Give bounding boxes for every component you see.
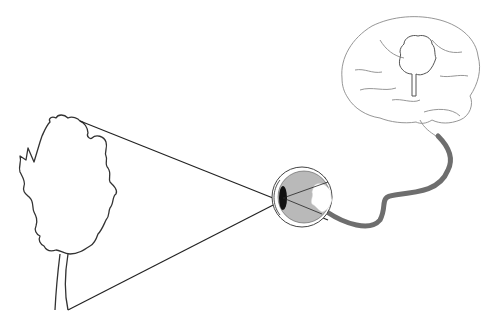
brain-sulcus-4 <box>440 75 468 76</box>
diagram-canvas <box>0 0 500 333</box>
tree-trunk <box>55 254 60 310</box>
tree-canopy <box>19 115 116 254</box>
brain-sulcus-3 <box>432 40 462 53</box>
tree-object <box>19 115 116 310</box>
brain-sulcus-1 <box>355 70 382 73</box>
brain-cerebellum <box>424 109 460 116</box>
brain <box>342 17 480 136</box>
brain-sulcus-2 <box>360 88 396 90</box>
vision-diagram <box>0 0 500 333</box>
tree-trunk-right <box>65 254 68 310</box>
optic-nerve <box>327 136 450 226</box>
brain-tree-image <box>399 35 436 96</box>
eye <box>272 167 332 227</box>
brain-sulcus-6 <box>392 100 420 102</box>
